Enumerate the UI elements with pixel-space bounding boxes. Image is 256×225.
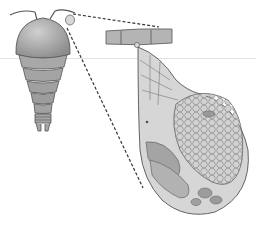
diagram-canvas [0,0,256,225]
copepod-body [16,18,70,131]
egg-sac-small [66,15,75,25]
appendage-segment [106,29,172,48]
copepod-illustration [0,0,256,225]
egg-sac-enlarged [138,47,248,214]
